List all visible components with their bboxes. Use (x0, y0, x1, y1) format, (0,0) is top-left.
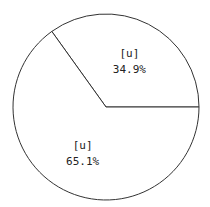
slice-value-label: 65.1% (66, 155, 99, 168)
pie-slices (13, 14, 199, 200)
slice-label: [u] (119, 47, 139, 60)
pie-chart: [u]34.9%[u]65.1% (0, 0, 210, 207)
slice-value-label: 34.9% (113, 63, 146, 76)
slice-label: [u] (73, 139, 93, 152)
